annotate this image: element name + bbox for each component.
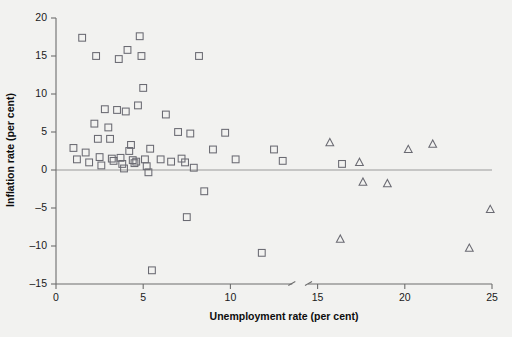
x-axis-tick-label: 10 xyxy=(225,291,237,303)
y-axis-tick-label: –15 xyxy=(29,277,47,289)
plot-background xyxy=(0,0,512,337)
x-axis-tick-label: 5 xyxy=(140,291,146,303)
x-axis-tick-label: 20 xyxy=(399,291,411,303)
y-axis-tick-label: 0 xyxy=(41,163,47,175)
x-axis-tick-label: 15 xyxy=(312,291,324,303)
y-axis-tick-label: 20 xyxy=(35,11,47,23)
x-axis-title: Unemployment rate (per cent) xyxy=(210,310,359,322)
y-axis-tick-label: 5 xyxy=(41,125,47,137)
scatter-plot-canvas: –15–10–505101520 0510152025 Unemployment… xyxy=(0,0,512,337)
y-axis-title: Inflation rate (per cent) xyxy=(4,93,16,207)
x-axis-tick-label: 0 xyxy=(53,291,59,303)
y-axis-tick-label: –10 xyxy=(29,239,47,251)
y-axis-tick-label: 15 xyxy=(35,49,47,61)
scatter-plot-figure: –15–10–505101520 0510152025 Unemployment… xyxy=(0,0,512,337)
y-axis-tick-label: –5 xyxy=(35,201,47,213)
x-axis-tick-label: 25 xyxy=(486,291,498,303)
y-axis-tick-label: 10 xyxy=(35,87,47,99)
